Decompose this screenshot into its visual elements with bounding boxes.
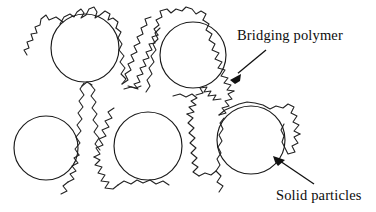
polymer-chain-bottom-left-flank [68,155,79,182]
polymer-chain-top-right-left-flank [146,28,160,92]
polymer-chain-upper-left-tail [24,15,63,55]
annotation-group [230,50,314,184]
polymer-stray-bottom-right [216,171,223,192]
bridging-flocculation-figure: Bridging polymer Solid particles [0,0,376,212]
polymer-chain-mid-right [187,114,199,176]
polymer-mass-lower-right-spike-a [196,87,221,100]
polymer-chain-top-right-crown [154,7,206,35]
polymer-bridge-left-column [75,83,84,155]
polymer-chain-bottom-middle-under [118,180,169,185]
polymer-bridge-top-pair [122,17,151,84]
polymer-chain-top-right-right-flank [203,20,234,91]
bridging-polymer-leader-line [238,50,266,73]
label-solid-particles: Solid particles [276,188,362,203]
particle-top-left [51,14,119,82]
particle-bottom-left [14,116,78,180]
polymer-bridge-top-pair-secondary [124,35,158,89]
particle-top-right [160,22,226,88]
polymer-bridge-left-column-secondary [90,84,100,150]
particle-bottom-right [217,106,285,174]
particle-bottom-middle [114,112,182,180]
label-bridging-polymer: Bridging polymer [237,28,343,43]
polymer-chain-bottom-middle-left [94,108,114,157]
polymer-stray-lower-left [61,182,68,194]
solid-particles-leader-line [281,162,314,184]
polymer-mass-lower-right-spike-b [173,94,197,114]
polymer-chain-bottom-middle-lower-left [94,157,118,189]
bridging-polymer-arrowhead [230,74,241,84]
